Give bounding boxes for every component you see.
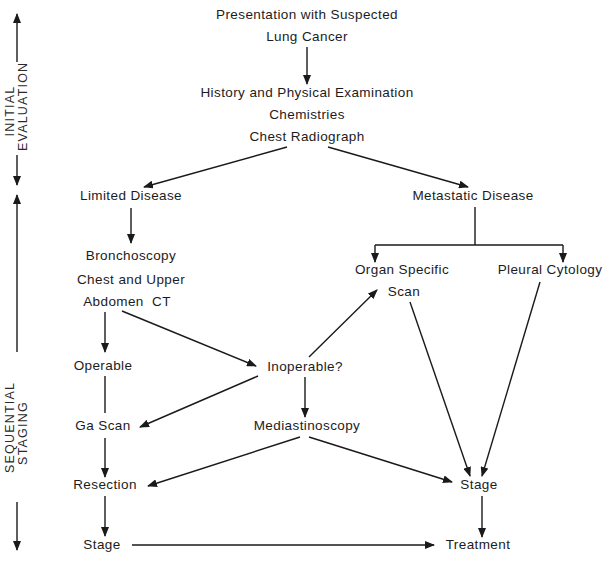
node-resection: Resection <box>73 478 137 492</box>
node-chest-upper-abdomen-line-2: Abdomen CT <box>83 295 171 309</box>
node-mediastinoscopy: Mediastinoscopy <box>254 419 361 433</box>
node-chemistries: Chemistries <box>269 108 345 122</box>
node-presentation-line-2: Lung Cancer <box>266 30 348 44</box>
node-limited-disease: Limited Disease <box>80 189 182 203</box>
edge-scan-stage <box>410 302 470 476</box>
edge-inoperable-gascan <box>140 376 258 427</box>
edge-radiograph-limited <box>144 147 287 187</box>
initial-evaluation-line-2: EVALUATION <box>17 71 30 151</box>
node-presentation-line-1: Presentation with Suspected <box>216 8 398 22</box>
node-inoperable: Inoperable? <box>267 360 343 374</box>
node-organ-specific-line-2: Scan <box>388 285 420 299</box>
node-stage-left: Stage <box>83 538 120 552</box>
node-bronchoscopy: Bronchoscopy <box>86 249 176 263</box>
edge-mediastinoscopy-resection <box>148 437 300 486</box>
node-operable: Operable <box>74 359 133 373</box>
edge-inoperable-scan <box>309 290 377 357</box>
node-organ-specific-line-1: Organ Specific <box>355 263 449 277</box>
node-history: History and Physical Examination <box>200 86 413 100</box>
node-chest-radiograph: Chest Radiograph <box>249 130 364 144</box>
sequential-staging-label: SEQUENTIAL STAGING <box>4 393 30 473</box>
edge-ct-inoperable <box>122 311 256 366</box>
edge-radiograph-metastatic <box>328 147 468 187</box>
sequential-staging-line-2: STAGING <box>17 393 30 473</box>
node-treatment: Treatment <box>446 538 511 552</box>
initial-evaluation-label: INITIAL EVALUATION <box>4 71 30 151</box>
node-metastatic-disease: Metastatic Disease <box>412 189 533 203</box>
node-chest-upper-abdomen-line-1: Chest and Upper <box>77 273 185 287</box>
edge-pleural-stage <box>482 282 540 476</box>
edge-mediastinoscopy-stage <box>309 437 452 482</box>
node-stage-right: Stage <box>460 478 497 492</box>
node-ga-scan: Ga Scan <box>75 419 130 433</box>
edge-metastatic-branches <box>375 207 563 262</box>
node-pleural-cytology: Pleural Cytology <box>498 263 603 277</box>
